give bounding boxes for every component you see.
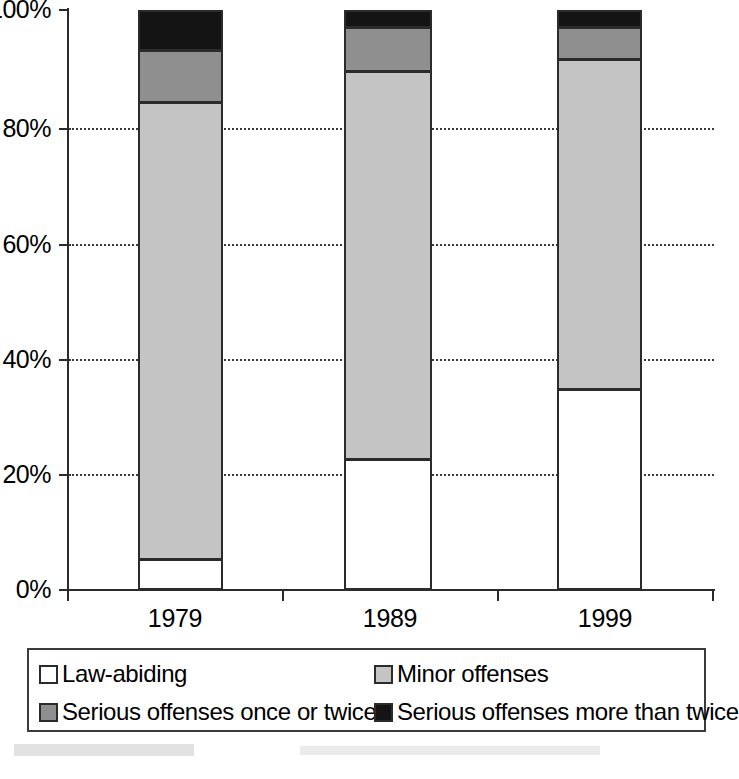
y-tick-mark-20 <box>59 474 69 476</box>
y-tick-label-100: 100% <box>0 0 51 22</box>
y-tick-label-80: 80% <box>0 116 51 141</box>
legend-row-2: Serious offenses once or twice Serious o… <box>29 692 704 732</box>
x-tick-mark-1 <box>282 591 284 601</box>
x-tick-mark-start <box>67 591 69 601</box>
x-tick-mark-2 <box>497 591 499 601</box>
legend-label-serious-once-or-twice: Serious offenses once or twice <box>62 699 376 725</box>
scan-artifact-left <box>14 744 194 756</box>
legend-item-minor-offenses: Minor offenses <box>374 654 548 694</box>
y-tick-mark-100 <box>59 9 69 11</box>
y-tick-label-60: 60% <box>0 232 51 257</box>
y-tick-mark-40 <box>59 359 69 361</box>
legend-item-serious-once-or-twice: Serious offenses once or twice <box>39 692 376 732</box>
scan-artifact-right <box>300 746 600 755</box>
chart-legend: Law-abiding Minor offenses Serious offen… <box>27 648 706 732</box>
bar-1979-segment-minor-offenses <box>138 102 223 560</box>
y-tick-label-20: 20% <box>0 462 51 487</box>
bar-1979-segment-law-abiding <box>138 559 223 590</box>
legend-swatch-minor-offenses-icon <box>374 665 393 684</box>
legend-label-law-abiding: Law-abiding <box>62 661 187 687</box>
y-axis-line <box>67 8 69 592</box>
bar-1999-segment-serious-once-or-twice <box>557 27 642 60</box>
y-tick-mark-60 <box>59 244 69 246</box>
bar-1999-segment-minor-offenses <box>557 59 642 390</box>
x-tick-label-1999: 1999 <box>525 603 685 633</box>
y-tick-mark-80 <box>59 128 69 130</box>
legend-label-minor-offenses: Minor offenses <box>397 661 548 687</box>
bar-1989-segment-minor-offenses <box>344 71 432 460</box>
bar-1979 <box>138 10 223 590</box>
bar-1999-segment-serious-more-than-twice <box>557 10 642 28</box>
bar-1999 <box>557 10 642 590</box>
x-tick-mark-end <box>712 591 714 601</box>
y-tick-label-0: 0% <box>0 577 51 602</box>
bar-1999-segment-law-abiding <box>557 389 642 590</box>
legend-swatch-serious-more-than-twice-icon <box>374 703 393 722</box>
legend-label-serious-more-than-twice: Serious offenses more than twice <box>397 699 739 725</box>
bar-1989-segment-serious-more-than-twice <box>344 10 432 28</box>
bar-1979-segment-serious-more-than-twice <box>138 10 223 51</box>
legend-swatch-law-abiding-icon <box>39 665 58 684</box>
x-tick-label-1979: 1979 <box>95 603 255 633</box>
bar-1979-segment-serious-once-or-twice <box>138 50 223 103</box>
bar-1989-segment-serious-once-or-twice <box>344 27 432 72</box>
legend-item-law-abiding: Law-abiding <box>39 654 187 694</box>
legend-row-1: Law-abiding Minor offenses <box>29 654 704 694</box>
x-tick-label-1989: 1989 <box>310 603 470 633</box>
y-tick-label-40: 40% <box>0 347 51 372</box>
legend-item-serious-more-than-twice: Serious offenses more than twice <box>374 692 739 732</box>
legend-swatch-serious-once-or-twice-icon <box>39 703 58 722</box>
bar-1989 <box>344 10 432 590</box>
bar-1989-segment-law-abiding <box>344 459 432 590</box>
